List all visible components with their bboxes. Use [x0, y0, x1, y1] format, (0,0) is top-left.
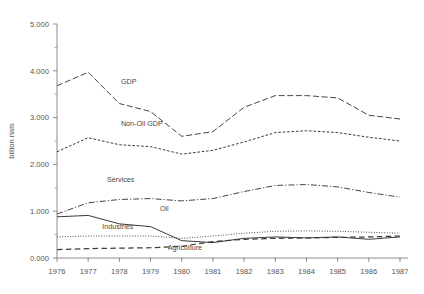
line-chart: 0.0001.0002.0003.0004.0005.000 197619771…	[0, 0, 424, 294]
x-tick-label-1983: 1983	[267, 267, 284, 276]
x-axis: 1976197719781979198019811982198319841985…	[49, 258, 409, 276]
y-tick-label-3: 3.000	[30, 113, 49, 122]
x-tick-label-1985: 1985	[329, 267, 346, 276]
series-line-services	[57, 185, 400, 214]
x-tick-label-1978: 1978	[111, 267, 128, 276]
y-tick-label-5: 5.000	[30, 20, 49, 29]
y-axis-title: billion rials	[7, 123, 16, 159]
x-tick-label-1977: 1977	[80, 267, 97, 276]
x-tick-label-1987: 1987	[392, 267, 409, 276]
x-tick-label-1979: 1979	[142, 267, 159, 276]
series-line-non-oil-gdp	[57, 131, 400, 154]
x-tick-label-1976: 1976	[49, 267, 66, 276]
series-line-gdp	[57, 72, 400, 136]
y-axis: 0.0001.0002.0003.0004.0005.000	[30, 20, 57, 263]
series-label-industries: Industries	[102, 222, 134, 231]
y-tick-label-2: 2.000	[30, 160, 49, 169]
series-label-oil: Oil	[160, 204, 169, 213]
x-tick-label-1986: 1986	[360, 267, 377, 276]
x-tick-label-1980: 1980	[173, 267, 190, 276]
chart-container: 0.0001.0002.0003.0004.0005.000 197619771…	[0, 0, 424, 294]
series-label-gdp: GDP	[121, 77, 137, 86]
series-label-non-oil-gdp: Non-Oil GDP	[121, 119, 163, 128]
series-label-agriculture: Agriculture	[168, 243, 202, 252]
y-tick-label-1: 1.000	[30, 207, 49, 216]
x-tick-label-1981: 1981	[204, 267, 221, 276]
series-line-industries	[57, 231, 400, 238]
y-tick-label-4: 4.000	[30, 67, 49, 76]
series-label-services: Services	[107, 175, 135, 184]
y-tick-label-0: 0.000	[30, 254, 49, 263]
x-tick-label-1982: 1982	[236, 267, 253, 276]
series-annotations: GDPNon-Oil GDPServicesOilIndustriesAgric…	[102, 77, 202, 252]
x-tick-label-1984: 1984	[298, 267, 315, 276]
